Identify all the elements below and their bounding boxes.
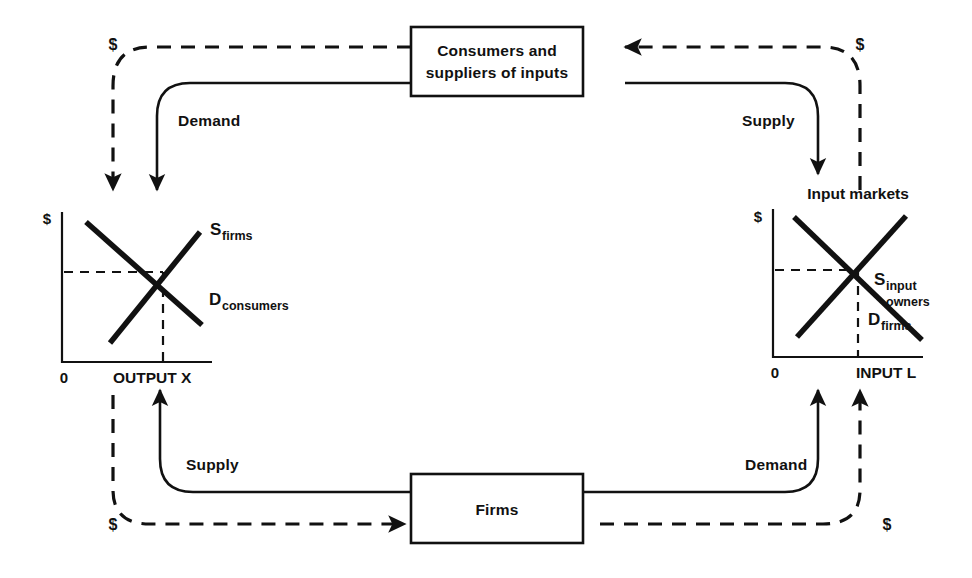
input-market-supply-symbol: S <box>874 270 885 289</box>
output-market-demand-subscript: consumers <box>222 299 289 313</box>
bottom-right-money-arrow <box>600 390 860 524</box>
circular-flow-diagram: Consumers and suppliers of inputs Firms … <box>0 0 972 578</box>
bottom-left-supply-flow: Supply <box>160 390 411 492</box>
output-market-demand-label: D consumers <box>209 290 289 313</box>
input-market-y-axis-label: $ <box>754 208 763 225</box>
input-market-demand-label: D firms <box>868 310 912 333</box>
top-left-demand-label: Demand <box>178 112 240 129</box>
bottom-left-money-label: $ <box>109 516 118 533</box>
output-market-x-axis-label: OUTPUT X <box>113 369 192 386</box>
input-market-chart: Input markets $ 0 INPUT L S input owners <box>754 185 930 381</box>
bottom-left-money-arrow <box>113 395 405 524</box>
bottom-left-supply-arrow <box>160 390 411 492</box>
top-left-money-label: $ <box>109 36 118 53</box>
top-entity-box-rect <box>411 27 583 96</box>
input-market-x-axis-label: INPUT L <box>856 364 916 381</box>
output-market-origin-label: 0 <box>60 369 68 386</box>
output-market-supply-subscript: firms <box>222 229 253 243</box>
output-market-chart: $ 0 OUTPUT X S firms D consumers <box>43 210 289 386</box>
input-market-supply-subscript-line2: owners <box>886 295 930 309</box>
input-market-origin-label: 0 <box>771 364 779 381</box>
input-market-demand-symbol: D <box>868 310 880 329</box>
top-right-supply-label: Supply <box>742 112 795 129</box>
top-right-money-label: $ <box>856 36 865 53</box>
bottom-left-money-flow: $ <box>109 395 405 533</box>
diagram-canvas: Consumers and suppliers of inputs Firms … <box>0 0 972 578</box>
output-market-demand-curve <box>86 222 202 325</box>
bottom-left-supply-label: Supply <box>186 456 239 473</box>
top-entity-box-line1: Consumers and <box>437 42 557 59</box>
input-market-title: Input markets <box>807 185 909 202</box>
top-entity-box-line2: suppliers of inputs <box>426 64 568 81</box>
bottom-entity-box-line1: Firms <box>475 501 518 518</box>
input-market-demand-subscript: firms <box>881 319 912 333</box>
top-left-demand-flow: Demand <box>157 83 411 190</box>
output-market-supply-curve <box>110 232 200 343</box>
bottom-right-demand-label: Demand <box>745 456 807 473</box>
bottom-right-demand-flow: Demand <box>583 390 818 492</box>
top-entity-box: Consumers and suppliers of inputs <box>411 27 583 96</box>
top-left-money-flow: $ <box>109 36 411 190</box>
output-market-demand-symbol: D <box>209 290 221 309</box>
output-market-y-axis-label: $ <box>43 210 52 227</box>
top-right-supply-flow: Supply <box>625 83 818 174</box>
output-market-axes <box>62 212 212 362</box>
top-left-demand-arrow <box>157 83 411 190</box>
bottom-right-money-label: $ <box>883 516 892 533</box>
bottom-entity-box: Firms <box>411 474 583 543</box>
bottom-right-demand-arrow <box>583 390 818 492</box>
output-market-supply-label: S firms <box>210 220 253 243</box>
input-market-supply-subscript-line1: input <box>886 279 917 293</box>
output-market-supply-symbol: S <box>210 220 221 239</box>
